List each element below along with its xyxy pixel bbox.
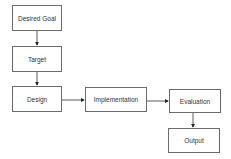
node-evaluation: Evaluation (169, 89, 221, 113)
node-label: Evaluation (180, 98, 210, 105)
node-label: Output (184, 137, 204, 144)
node-target: Target (12, 46, 62, 72)
node-label: Desired Goal (18, 15, 56, 22)
node-output: Output (168, 128, 220, 153)
node-label: Implementation (94, 96, 138, 103)
node-design: Design (12, 86, 62, 112)
node-label: Design (27, 96, 47, 103)
node-implementation: Implementation (85, 87, 147, 112)
node-desired-goal: Desired Goal (12, 5, 62, 31)
node-label: Target (28, 56, 46, 63)
